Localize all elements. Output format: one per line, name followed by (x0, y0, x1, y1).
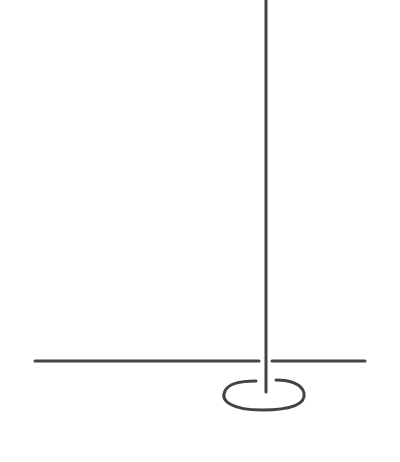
base-loop (224, 380, 304, 410)
line-drawing (0, 0, 400, 462)
diagram-canvas (0, 0, 400, 462)
